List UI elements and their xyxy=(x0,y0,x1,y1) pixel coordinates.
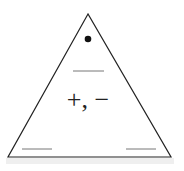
shadow xyxy=(6,158,174,164)
triangle-diagram: +, − xyxy=(0,0,184,171)
operation-symbol: +, − xyxy=(67,85,109,114)
dot-marker xyxy=(85,36,92,43)
